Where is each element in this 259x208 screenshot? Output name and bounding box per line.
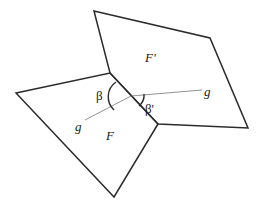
unfolding-diagram: F' F g g β β' (0, 0, 259, 208)
face-f-prime-polygon (94, 11, 248, 128)
face-f-polygon (16, 73, 158, 197)
label-g-left: g (75, 119, 82, 134)
diagram-canvas: F' F g g β β' (0, 0, 259, 208)
label-face-f: F (105, 128, 115, 143)
label-face-f-prime: F' (144, 50, 156, 65)
label-beta-prime: β' (145, 101, 154, 116)
label-beta: β (96, 88, 103, 103)
geodesic-segment-f-prime (131, 90, 202, 96)
label-g-right: g (204, 84, 211, 99)
